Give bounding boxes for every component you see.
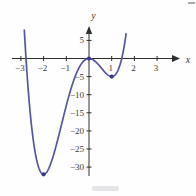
x-axis-arrow-icon xyxy=(172,55,180,62)
x-tick-label: −3 xyxy=(15,63,25,73)
crop-artifact-bottom-caption xyxy=(92,186,119,191)
crop-artifact-top-right xyxy=(188,2,195,4)
local-minimum-point xyxy=(42,172,46,176)
x-axis-label: x xyxy=(185,54,191,65)
y-tick-label: 5 xyxy=(80,35,85,45)
y-axis-label: y xyxy=(90,10,96,21)
x-tick-label: −1 xyxy=(61,63,71,73)
x-tick-label: 3 xyxy=(154,63,159,73)
function-graph-figure: −3−2−11235−5−10−15−20−25−30xy xyxy=(0,0,196,196)
x-tick-label: −2 xyxy=(38,63,48,73)
y-tick-label: −20 xyxy=(70,126,85,136)
y-tick-label: −10 xyxy=(70,90,85,100)
x-tick-label: 2 xyxy=(131,63,136,73)
y-axis-arrow-icon xyxy=(86,26,92,34)
function-plot: −3−2−11235−5−10−15−20−25−30xy xyxy=(0,0,196,196)
local-minimum-point xyxy=(110,75,114,79)
local-maximum-point xyxy=(87,56,91,60)
y-tick-label: −30 xyxy=(70,162,85,172)
y-tick-label: −25 xyxy=(70,144,85,154)
y-tick-label: −15 xyxy=(70,108,85,118)
x-tick-label: 1 xyxy=(108,63,113,73)
